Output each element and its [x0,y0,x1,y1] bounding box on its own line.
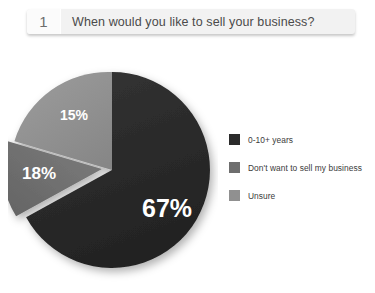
legend-swatch-icon [229,134,240,145]
legend-label: 0-10+ years [248,135,293,145]
legend-swatch-icon [229,190,240,201]
pie-chart: 67% 18% 15% [8,52,218,284]
pie-value-label-dont-want-to-sell: 18% [22,164,56,183]
legend-swatch-icon [229,162,240,173]
question-text: When would you like to sell your busines… [61,9,355,34]
pie-value-label-unsure: 15% [60,107,89,123]
question-header-bar: 1 When would you like to sell your busin… [27,9,355,34]
legend-item-unsure: Unsure [229,190,375,201]
chart-legend: 0-10+ years Don't want to sell my busine… [229,134,375,218]
legend-item-dont-want-to-sell: Don't want to sell my business [229,162,375,173]
question-number-badge: 1 [27,9,60,34]
pie-chart-svg: 67% 18% 15% [8,52,218,284]
legend-label: Don't want to sell my business [248,163,362,173]
legend-label: Unsure [248,191,275,201]
legend-item-0-10-years: 0-10+ years [229,134,375,145]
pie-value-label-0-10-years: 67% [142,194,192,222]
